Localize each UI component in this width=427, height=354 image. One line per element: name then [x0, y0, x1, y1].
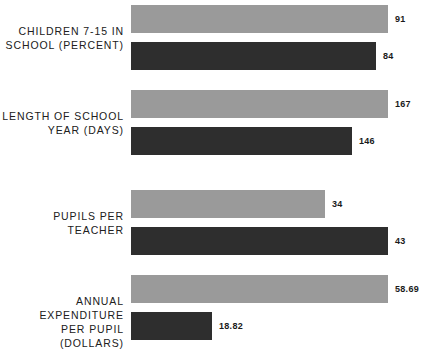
bar-dark [131, 312, 212, 340]
bar-row: 167 [0, 90, 427, 118]
bar-value-label: 58.69 [395, 275, 419, 303]
bar-value-label: 34 [332, 190, 343, 218]
bar-dark [131, 227, 388, 255]
bar-group: CHILDREN 7-15 IN SCHOOL (PERCENT)9184 [0, 5, 427, 70]
bar-dark [131, 42, 376, 70]
bar-row: 146 [0, 127, 427, 155]
bar-group: ANNUAL EXPENDITURE PER PUPIL (DOLLARS)58… [0, 275, 427, 340]
bar-value-label: 146 [359, 127, 375, 155]
bar-value-label: 84 [383, 42, 394, 70]
bar-value-label: 18.82 [219, 312, 243, 340]
bar-row: 91 [0, 5, 427, 33]
bar-light [131, 190, 325, 218]
bar-row: 43 [0, 227, 427, 255]
bar-value-label: 43 [395, 227, 406, 255]
bar-light [131, 5, 388, 33]
bar-dark [131, 127, 352, 155]
bar-light [131, 275, 388, 303]
bar-row: 58.69 [0, 275, 427, 303]
bar-row: 84 [0, 42, 427, 70]
bar-group: PUPILS PER TEACHER3443 [0, 190, 427, 255]
bar-row: 18.82 [0, 312, 427, 340]
bar-value-label: 167 [395, 90, 411, 118]
bar-group: LENGTH OF SCHOOL YEAR (DAYS)167146 [0, 90, 427, 155]
paired-bar-chart: CHILDREN 7-15 IN SCHOOL (PERCENT)9184LEN… [0, 0, 427, 354]
bar-light [131, 90, 388, 118]
bar-row: 34 [0, 190, 427, 218]
bar-value-label: 91 [395, 5, 406, 33]
